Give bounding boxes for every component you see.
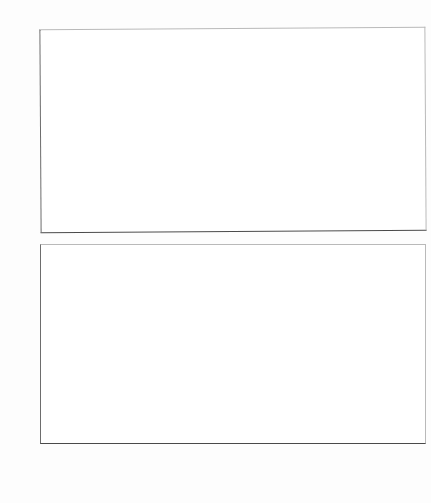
top-histogram-chart [0,0,431,238]
top-bars-group [40,28,425,232]
bottom-bars-group [41,245,425,443]
bottom-plot-area [40,244,426,444]
bottom-histogram-chart [0,238,431,503]
figure-root [0,0,431,503]
top-plot-area [39,27,426,233]
